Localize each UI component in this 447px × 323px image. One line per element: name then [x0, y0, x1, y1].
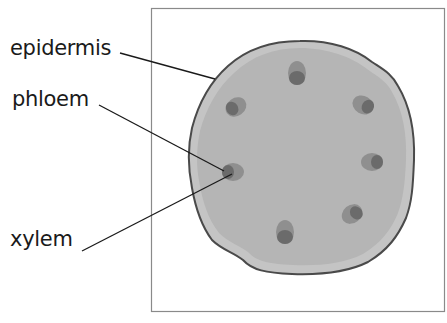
- vascular-bundle-top: [288, 61, 306, 85]
- xylem-label: xylem: [10, 229, 73, 250]
- vascular-bundle-left: [222, 163, 244, 181]
- epidermis-label: epidermis: [10, 38, 111, 59]
- vascular-bundle-bottom: [276, 220, 294, 244]
- vascular-bundle-right: [361, 153, 383, 171]
- phloem-label: phloem: [12, 89, 89, 110]
